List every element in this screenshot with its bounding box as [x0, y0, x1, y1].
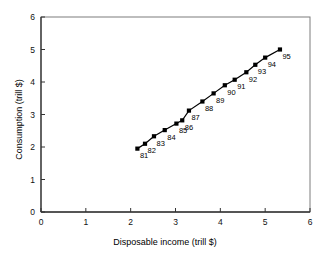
- axis-frame: [41, 17, 310, 212]
- data-point-label: 82: [148, 147, 156, 155]
- y-axis-title: Consumption (trill $): [15, 55, 24, 185]
- data-point-label: 86: [185, 124, 193, 132]
- data-point-label: 93: [258, 68, 266, 76]
- data-point-label: 92: [249, 76, 257, 84]
- data-point-label: 90: [227, 89, 235, 97]
- data-point-label: 94: [268, 61, 276, 69]
- data-point-label: 88: [205, 105, 213, 113]
- x-tick-label: 3: [166, 218, 186, 227]
- y-tick-label: 6: [19, 13, 35, 22]
- y-tick-label: 5: [19, 46, 35, 55]
- data-point-label: 89: [216, 97, 224, 105]
- data-point-label: 83: [156, 140, 164, 148]
- x-tick-label: 6: [300, 218, 320, 227]
- x-tick-label: 0: [31, 218, 51, 227]
- tick-marks: [41, 17, 310, 212]
- trend-line: [137, 50, 280, 149]
- x-tick-label: 2: [121, 218, 141, 227]
- y-tick-label: 0: [19, 208, 35, 217]
- scatter-chart-figure: 0123456 0123456 818283848586878889909192…: [0, 0, 330, 256]
- data-point-label: 95: [282, 53, 290, 61]
- data-point-label: 84: [167, 134, 175, 142]
- data-markers: [135, 47, 282, 150]
- data-point-label: 91: [237, 83, 245, 91]
- x-tick-label: 5: [255, 218, 275, 227]
- x-tick-label: 4: [210, 218, 230, 227]
- x-axis-title: Disposable income (trill $): [0, 238, 330, 247]
- x-tick-label: 1: [76, 218, 96, 227]
- data-point-label: 87: [191, 114, 199, 122]
